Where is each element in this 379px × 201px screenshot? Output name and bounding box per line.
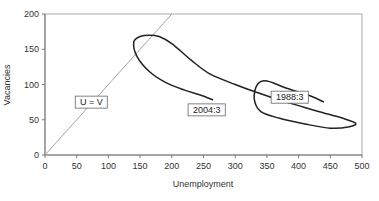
- plot-frame: [45, 14, 362, 155]
- beveridge-curve: [134, 35, 356, 128]
- annotation-label: U = V: [75, 96, 107, 108]
- x-axis-label: Unemployment: [173, 179, 234, 189]
- x-tick-label: 400: [291, 161, 306, 171]
- x-tick-label: 50: [72, 161, 82, 171]
- series-layer: [45, 14, 356, 155]
- annotation-label: 2004:3: [188, 104, 225, 116]
- x-tick-label: 500: [354, 161, 369, 171]
- svg-text:2004:3: 2004:3: [193, 105, 221, 115]
- y-tick-label: 200: [24, 9, 39, 19]
- x-tick-label: 300: [228, 161, 243, 171]
- beveridge-chart: 0501001502002503003504004505000501001502…: [0, 0, 379, 201]
- svg-text:1988:3: 1988:3: [276, 92, 304, 102]
- axis-ticks: 0501001502002503003504004505000501001502…: [24, 9, 370, 171]
- x-tick-label: 250: [196, 161, 211, 171]
- x-tick-label: 100: [101, 161, 116, 171]
- y-tick-label: 100: [24, 80, 39, 90]
- y-tick-label: 50: [29, 115, 39, 125]
- x-tick-label: 450: [323, 161, 338, 171]
- plot-area: [45, 14, 362, 155]
- x-tick-label: 150: [133, 161, 148, 171]
- x-tick-label: 200: [164, 161, 179, 171]
- annotation-label: 1988:3: [271, 91, 308, 103]
- svg-text:U = V: U = V: [80, 97, 103, 107]
- y-tick-label: 150: [24, 44, 39, 54]
- annotations: U = V1988:32004:3: [75, 91, 308, 116]
- y-axis-label: Vacancies: [2, 64, 12, 105]
- y-tick-label: 0: [34, 150, 39, 160]
- x-tick-label: 350: [259, 161, 274, 171]
- x-tick-label: 0: [42, 161, 47, 171]
